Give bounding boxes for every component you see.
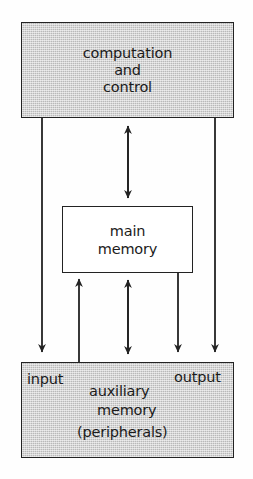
computation-label-line2: and: [114, 62, 141, 79]
auxiliary-output-label: output: [174, 369, 221, 385]
architecture-diagram: computation and control main memory inpu…: [0, 0, 253, 479]
auxiliary-label-line2: memory: [97, 402, 156, 418]
computation-label-line3: control: [103, 79, 152, 96]
node-computation-and-control: computation and control: [21, 22, 234, 118]
auxiliary-label-line3: (peripherals): [77, 424, 168, 440]
auxiliary-input-label: input: [27, 371, 63, 387]
computation-label-line1: computation: [83, 45, 173, 62]
auxiliary-label-line1: auxiliary: [89, 383, 149, 399]
main-memory-label-line1: main: [110, 222, 145, 240]
node-main-memory: main memory: [62, 206, 193, 273]
main-memory-label-line2: memory: [98, 240, 157, 258]
